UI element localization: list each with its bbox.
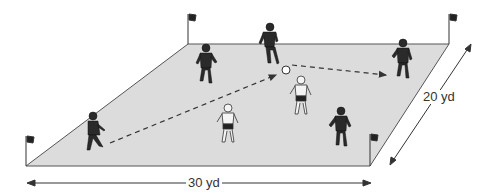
field-diagram	[0, 0, 493, 196]
ball	[282, 66, 290, 74]
depth-label: 20 yd	[421, 90, 457, 104]
width-label: 30 yd	[186, 176, 222, 190]
